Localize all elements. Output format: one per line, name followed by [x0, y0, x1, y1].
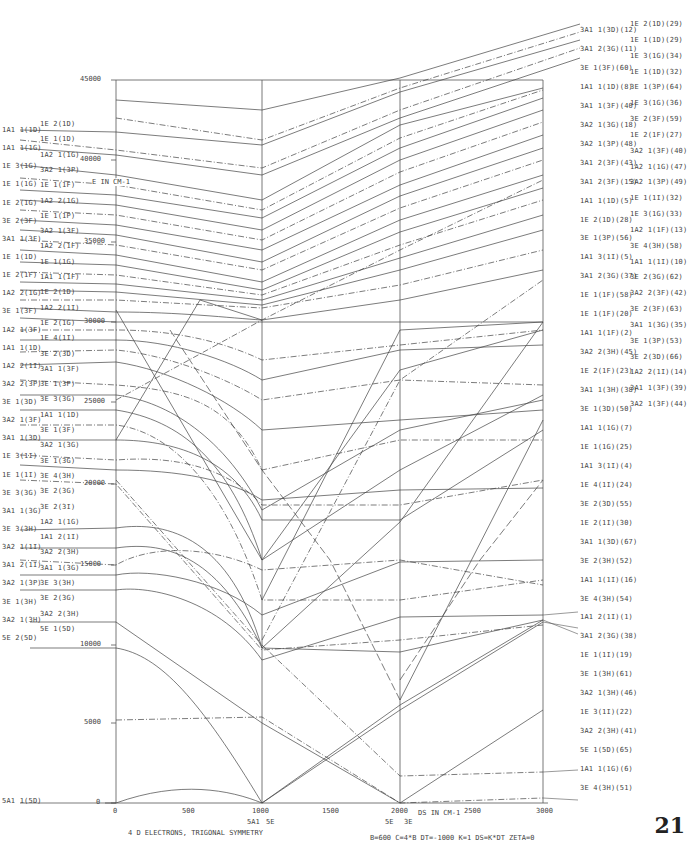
state-label: 1A1 1(1I)(10)	[630, 258, 687, 266]
state-label: 5E 2(5D)	[2, 634, 37, 642]
state-label: 1E 3(1G)(36)	[630, 99, 683, 107]
state-label: 1E 2(1D)	[40, 288, 75, 296]
state-label: 1A1 2(1I)(1)	[580, 613, 633, 621]
chart-title: 4 D ELECTRONS, TRIGONAL SYMMETRY	[128, 829, 263, 837]
state-label: 1E 1(1G)	[2, 180, 37, 188]
state-label: 3E 3(3H)	[2, 525, 37, 533]
state-label: 3E 1(3P)(53)	[630, 337, 683, 345]
x-tick-2500: 2500	[464, 807, 481, 815]
crossing-label-5E: 5E	[266, 818, 274, 826]
state-label: 1A1 1(1G)	[2, 144, 42, 152]
state-label: 1E 1(1I)(32)	[630, 194, 683, 202]
state-label: 1E 1(1F)(58)	[580, 291, 633, 299]
y-ticks	[111, 80, 116, 803]
y-tick-30000: 30000	[84, 317, 105, 325]
state-label: 3E 4(3H)	[40, 472, 75, 480]
y-tick-20000: 20000	[84, 479, 105, 487]
state-label: 3A2 2(3H)	[40, 610, 80, 618]
state-label: 3A2 1(3F)	[40, 227, 80, 235]
state-label: 1E 2(1F)(27)	[630, 131, 683, 139]
state-label: 1A2 1(3F)	[2, 326, 42, 334]
state-label: 1A2 2(1I)	[2, 362, 42, 370]
y-tick-35000: 35000	[84, 237, 105, 245]
y-tick-45000: 45000	[80, 75, 101, 83]
curve-5A1	[20, 622, 543, 803]
state-label: 1A1 1(1D)(5)	[580, 197, 633, 205]
state-label: 3E 4(3H)(51)	[580, 784, 633, 792]
state-label: 5E 1(5D)	[40, 625, 75, 633]
state-label: 1E 1(1P)	[40, 212, 75, 220]
state-label: 1A2 2(1I)	[40, 304, 80, 312]
state-label: 3A2 2(3H)	[40, 548, 80, 556]
x-axis-label: DS IN CM-1	[418, 809, 460, 817]
state-label: 3E 1(3H)(61)	[580, 670, 633, 678]
state-label: 1E 2(1I)(30)	[580, 519, 633, 527]
state-label: 1E 3(1I)(22)	[580, 708, 633, 716]
state-label: 3E 1(3F)	[40, 426, 75, 434]
state-label: 3A2 1(3F)(44)	[630, 400, 687, 408]
state-label: 3A2 1(3F)	[2, 416, 42, 424]
state-label: 1E 2(1F)(23)	[580, 367, 633, 375]
state-label: 3A1 1(3F)	[40, 365, 80, 373]
state-label: 3A1 2(3G)(37)	[580, 272, 637, 280]
state-label: 1E 3(1I)	[2, 452, 37, 460]
y-tick-5000: 5000	[84, 718, 101, 726]
state-label: 1A1 1(1D)	[2, 344, 42, 352]
state-label: 1A1 1(1G)(7)	[580, 424, 633, 432]
state-label: 3E 2(3I)	[40, 503, 75, 511]
state-label: 1A1 1(1D)	[40, 411, 80, 419]
state-label: 1E 1(1I)	[2, 471, 37, 479]
state-label: 1A2 2(1G)	[40, 197, 80, 205]
state-label: 3A1 1(3G)	[2, 507, 42, 515]
crossing-label-5E-2000: 5E	[385, 818, 393, 826]
state-label: 1E 1(1I)(19)	[580, 651, 633, 659]
state-label: 3E 1(3P)	[40, 380, 75, 388]
state-label: 1A1 1(1D)(8)	[580, 83, 633, 91]
state-label: 1E 4(1I)	[40, 334, 75, 342]
state-label: 1A2 2(1G)	[2, 289, 42, 297]
state-label: 1A2 1(1G)(47)	[630, 163, 687, 171]
state-label: 3A1 1(3D)(67)	[580, 538, 637, 546]
state-label: 3A1 1(3F)(40)	[580, 102, 637, 110]
state-label: 3A1 2(3F)(15)	[580, 178, 637, 186]
state-label: 1A2 2(1F)	[40, 242, 80, 250]
state-label: 1E 2(1D)(29)	[630, 20, 683, 28]
state-label: 3E 1(3D)	[2, 398, 37, 406]
state-label: 3A2 2(3P)	[2, 380, 42, 388]
state-label: 3E 3(3H)	[40, 579, 75, 587]
y-tick-25000: 25000	[84, 397, 105, 405]
state-label: 1E 1(1F)(20)	[580, 310, 633, 318]
x-tick-500: 500	[182, 807, 195, 815]
y-tick-10000: 10000	[80, 640, 101, 648]
state-label: 1E 2(1F)	[2, 271, 37, 279]
x-tick-0: 0	[113, 807, 117, 815]
state-label: 3A2 1(1I)	[2, 543, 42, 551]
curve-3E-4H-51	[116, 717, 543, 803]
state-label: 3A2 1(3F)(40)	[630, 147, 687, 155]
state-label: 3E 4(3H)(54)	[580, 595, 633, 603]
state-label: 3E 1(3H)	[2, 598, 37, 606]
state-label: 3A2 1(3P)	[2, 579, 42, 587]
state-label: 3A2 2(3H)(41)	[580, 727, 637, 735]
state-label: 3E 4(3H)(58)	[630, 242, 683, 250]
state-label: 5E 1(5D)(65)	[580, 746, 633, 754]
state-label: 3E 1(3D)(50)	[580, 405, 633, 413]
crossing-label-3E-2000: 3E	[404, 818, 412, 826]
state-label: 3A2 1(3G)	[40, 441, 80, 449]
x-tick-3000: 3000	[536, 807, 553, 815]
state-label: 3E 2(3D)	[40, 350, 75, 358]
page-number: 21	[654, 812, 685, 838]
curve-5E-1	[30, 622, 543, 803]
state-label: 1E 2(1G)	[40, 319, 75, 327]
state-label: 3E 2(3D)(55)	[580, 500, 633, 508]
energy-curves	[20, 24, 580, 803]
state-label: 3A1 1(3G)(35)	[630, 321, 687, 329]
state-label: 1E 2(1G)	[2, 199, 37, 207]
state-label: 3A2 1(3G)(18)	[580, 121, 637, 129]
state-label: 3A1 2(1I)	[2, 561, 42, 569]
state-label: 3A1 1(3H)(38)	[580, 386, 637, 394]
state-label: 1A1 3(1I)(5)	[580, 253, 633, 261]
state-label: 1A1 3(1I)(4)	[580, 462, 633, 470]
state-label: 3A2 1(3P)	[40, 166, 80, 174]
curve-1A1-1G-6	[116, 480, 543, 776]
